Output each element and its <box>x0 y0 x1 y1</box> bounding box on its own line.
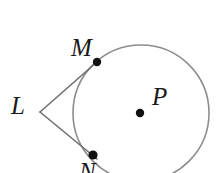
point-m-dot <box>93 58 101 66</box>
point-label-l: L <box>11 93 25 118</box>
point-label-p: P <box>152 84 167 109</box>
figure-canvas <box>0 0 223 173</box>
point-p-center-dot <box>136 109 144 117</box>
tangent-segment-lm <box>40 61 98 112</box>
geometry-figure: M L P N <box>0 0 223 173</box>
tangent-segment-ln <box>40 112 97 159</box>
point-label-n: N <box>79 159 96 173</box>
point-label-m: M <box>71 35 92 60</box>
